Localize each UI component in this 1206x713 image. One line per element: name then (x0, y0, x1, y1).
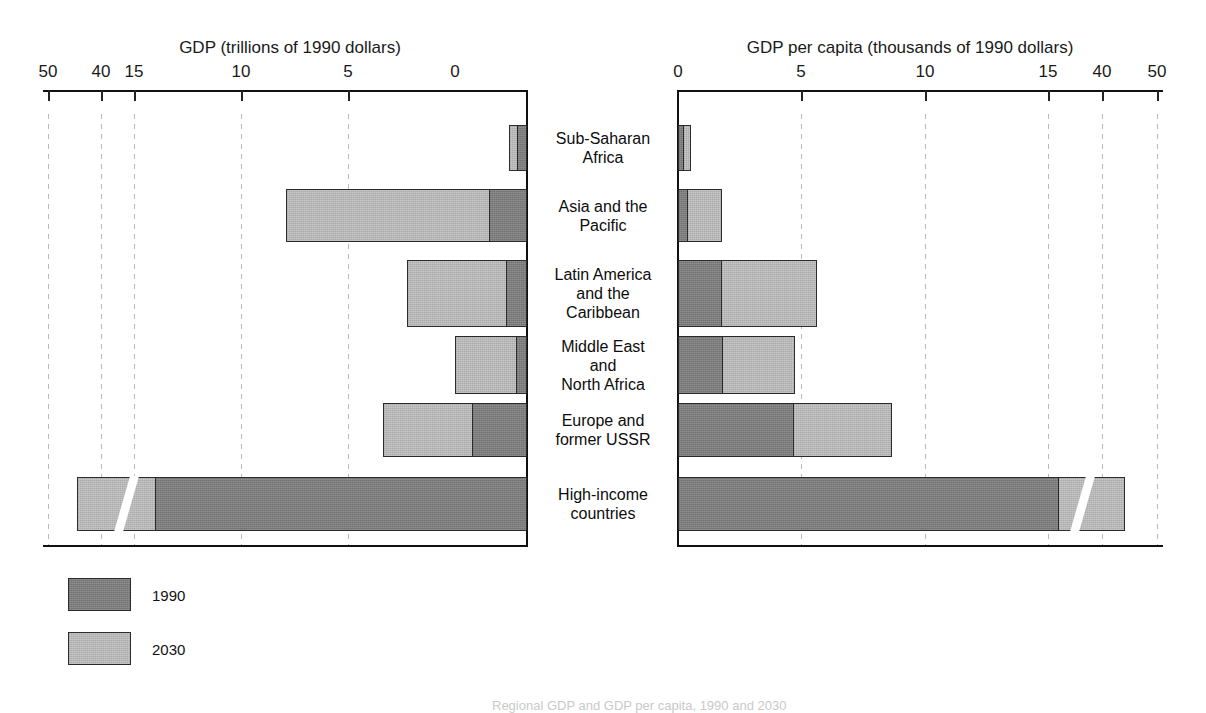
right-tick-mark-10 (925, 90, 927, 101)
category-label-middle-east-and-north-africa: Middle East and North Africa (518, 337, 688, 394)
left-bottom-axis-line (43, 545, 528, 547)
right-tick-label-10: 10 (916, 62, 935, 82)
category-label-asia-and-the-pacific: Asia and the Pacific (518, 197, 688, 235)
left-tick-mark-5 (348, 90, 350, 101)
right-axis-line (677, 90, 1163, 92)
bar-left-2030-sub-saharan-africa (509, 125, 518, 171)
right-tick-mark-40 (1102, 90, 1104, 101)
bar-left-2030-europe-and-former-ussr (383, 403, 473, 457)
left-tick-mark-10 (241, 90, 243, 101)
category-label-latin-america-and-the-caribbean: Latin America and the Caribbean (518, 265, 688, 322)
left-tick-label-5: 5 (343, 62, 352, 82)
left-tick-mark-40 (101, 90, 103, 101)
bar-left-2030-middle-east-and-north-africa (455, 336, 517, 394)
bar-right-2030-latin-america-and-the-caribbean (721, 260, 817, 327)
legend-label-1990: 1990 (152, 587, 185, 604)
bar-right-2030-europe-and-former-ussr (793, 403, 892, 457)
bar-left-2030-latin-america-and-the-caribbean (407, 260, 507, 327)
category-label-sub-saharan-africa: Sub-Saharan Africa (518, 129, 688, 167)
figure-caption: Regional GDP and GDP per capita, 1990 an… (492, 698, 786, 713)
category-label-high-income-countries: High-income countries (518, 485, 688, 523)
right-axis-title: GDP per capita (thousands of 1990 dollar… (660, 38, 1160, 58)
left-tick-label-40: 40 (92, 62, 111, 82)
bar-right-2030-middle-east-and-north-africa (722, 336, 795, 394)
bar-right-2030-asia-and-the-pacific (687, 189, 722, 242)
bar-right-1990-high-income-countries (678, 477, 1059, 531)
right-gridline-50 (1157, 114, 1158, 546)
left-tick-mark-15 (134, 90, 136, 101)
left-gridline-50 (48, 114, 49, 546)
right-tick-label-40: 40 (1093, 62, 1112, 82)
left-tick-mark-50 (48, 90, 50, 101)
bar-right-1990-europe-and-former-ussr (678, 403, 794, 457)
category-label-europe-and-former-ussr: Europe and former USSR (518, 411, 688, 449)
left-axis-line (43, 90, 528, 92)
legend-swatch-2030 (68, 632, 131, 665)
right-tick-mark-50 (1157, 90, 1159, 101)
right-tick-label-15: 15 (1039, 62, 1058, 82)
left-tick-label-15: 15 (125, 62, 144, 82)
right-tick-mark-5 (801, 90, 803, 101)
left-tick-label-10: 10 (232, 62, 251, 82)
bar-left-2030-asia-and-the-pacific (286, 189, 490, 242)
left-tick-label-0: 0 (450, 62, 459, 82)
left-tick-label-50: 50 (39, 62, 58, 82)
legend-swatch-1990 (68, 578, 131, 611)
bar-left-1990-high-income-countries (155, 477, 527, 531)
right-tick-mark-15 (1048, 90, 1050, 101)
right-tick-label-5: 5 (796, 62, 805, 82)
legend-label-2030: 2030 (152, 641, 185, 658)
right-tick-label-50: 50 (1148, 62, 1167, 82)
right-bottom-axis-line (677, 545, 1163, 547)
left-axis-title: GDP (trillions of 1990 dollars) (60, 38, 520, 58)
right-tick-label-0: 0 (673, 62, 682, 82)
